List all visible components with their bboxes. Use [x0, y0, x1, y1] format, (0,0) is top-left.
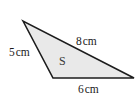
side-length-value-bottom: 6 [78, 83, 84, 95]
triangle-shape [23, 21, 134, 78]
region-label: S [59, 55, 66, 67]
side-length-unit-upper-right: cm [83, 35, 97, 47]
triangle-figure: 5cm 8cm 6cm S [0, 0, 136, 103]
side-length-label-left: 5cm [9, 47, 30, 59]
side-length-unit-left: cm [16, 46, 30, 58]
side-length-label-upper-right: 8cm [76, 36, 97, 48]
side-length-value-upper-right: 8 [76, 35, 82, 47]
side-length-label-bottom: 6cm [78, 84, 99, 96]
side-length-unit-bottom: cm [85, 83, 99, 95]
side-length-value-left: 5 [9, 46, 15, 58]
